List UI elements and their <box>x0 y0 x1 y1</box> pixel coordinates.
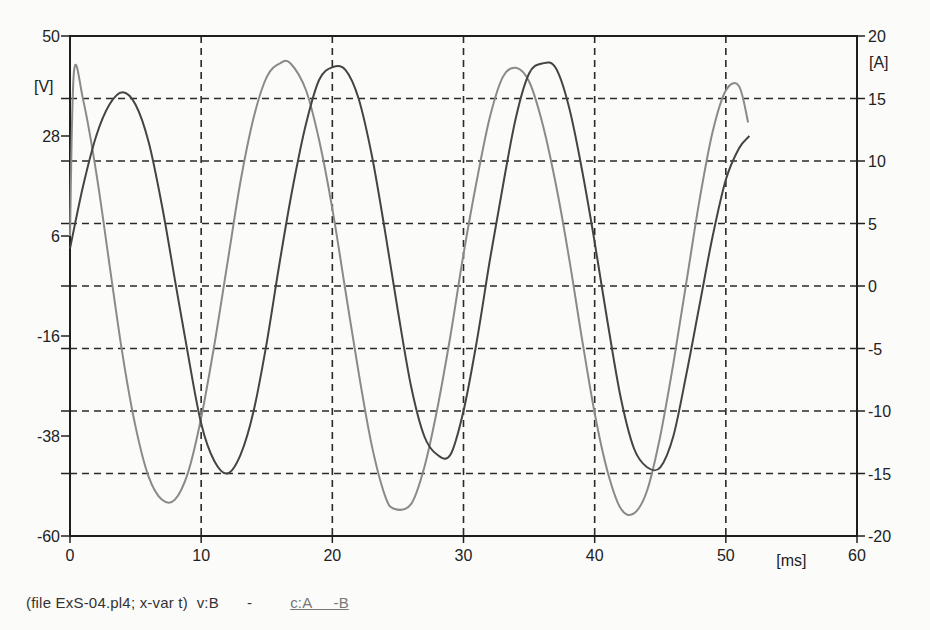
y-right-tick-label: -20 <box>868 528 891 545</box>
y-left-unit-label: [V] <box>34 78 54 95</box>
y-right-tick-label: 5 <box>868 216 877 233</box>
x-tick-label: 40 <box>586 547 604 564</box>
y-right-tick-label: 15 <box>868 91 886 108</box>
legend-voltage: v:B <box>197 594 219 611</box>
x-tick-label: 60 <box>848 547 866 564</box>
x-tick-label: 10 <box>192 547 210 564</box>
voltage-curve <box>70 61 748 515</box>
y-left-tick-label: -38 <box>37 428 60 445</box>
y-left-tick-label: 6 <box>51 228 60 245</box>
chart: 010203040506020151050-5-10-15-2050286-16… <box>0 0 930 630</box>
y-right-tick-label: -15 <box>868 466 891 483</box>
y-left-tick-label: -16 <box>37 328 60 345</box>
y-right-tick-label: -10 <box>868 403 891 420</box>
y-right-tick-label: 0 <box>868 278 877 295</box>
y-right-tick-label: 20 <box>868 28 886 45</box>
x-tick-label: 0 <box>66 547 75 564</box>
data-series <box>70 61 749 515</box>
x-tick-label: 50 <box>717 547 735 564</box>
y-right-tick-label: 10 <box>868 153 886 170</box>
legend-caption: (file ExS-04.pl4; x-var t) v:B-c:A -B <box>26 594 349 611</box>
legend-dash: - <box>247 594 252 611</box>
y-left-tick-label: -60 <box>37 528 60 545</box>
x-tick-label: 30 <box>455 547 473 564</box>
file-info: (file ExS-04.pl4; x-var t) <box>26 594 188 611</box>
current-curve <box>70 62 749 473</box>
legend-current: c:A -B <box>290 594 349 611</box>
y-left-tick-label: 50 <box>42 28 60 45</box>
x-tick-label: 20 <box>323 547 341 564</box>
y-left-tick-label: 28 <box>42 128 60 145</box>
x-unit-label: [ms] <box>776 552 806 569</box>
grid-lines <box>70 36 857 536</box>
axis-labels: 010203040506020151050-5-10-15-2050286-16… <box>34 28 891 569</box>
y-right-tick-label: -5 <box>868 341 882 358</box>
y-right-unit-label: [A] <box>869 54 889 71</box>
